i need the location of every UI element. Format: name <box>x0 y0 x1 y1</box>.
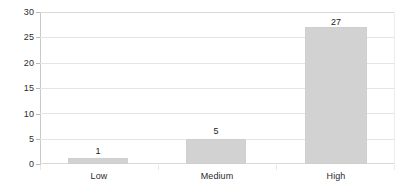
category-label-high: High <box>305 171 367 182</box>
x-tick-separator <box>394 165 395 170</box>
bar-chart: 30 25 20 15 10 5 0 1 5 27 Low <box>0 0 419 196</box>
y-tick-label: 30 <box>4 7 34 17</box>
x-tick-separator <box>276 165 277 170</box>
y-axis-labels: 30 25 20 15 10 5 0 <box>0 0 34 196</box>
y-tick-label: 0 <box>4 159 34 169</box>
y-tick-label: 5 <box>4 134 34 144</box>
plot-area <box>40 12 395 164</box>
y-tick-label: 25 <box>4 32 34 42</box>
bar-medium[interactable] <box>186 139 246 164</box>
y-tick-label: 20 <box>4 58 34 68</box>
category-label-medium: Medium <box>187 171 247 182</box>
bar-low[interactable] <box>68 158 128 164</box>
x-tick-separator <box>158 165 159 170</box>
bar-value-medium: 5 <box>186 126 246 136</box>
bar-value-low: 1 <box>68 146 128 156</box>
plot-right-edge <box>394 12 395 164</box>
y-tick-label: 10 <box>4 109 34 119</box>
category-label-low: Low <box>69 171 129 182</box>
x-tick-separator <box>40 165 41 170</box>
bar-high[interactable] <box>305 27 367 164</box>
y-tick-label: 15 <box>4 83 34 93</box>
gridline-30 <box>40 12 395 13</box>
bar-value-high: 27 <box>305 17 367 27</box>
